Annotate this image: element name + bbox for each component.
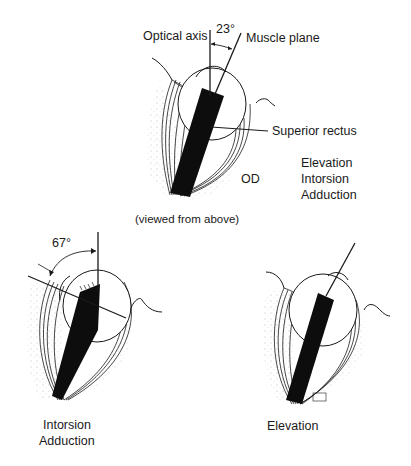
viewed-from-above-caption: (viewed from above): [135, 212, 239, 227]
bottom-left-eye-figure: [26, 232, 162, 400]
optical-axis-label: Optical axis: [143, 29, 208, 44]
bottom-right-action-elevation: Elevation: [267, 419, 318, 434]
bottom-left-action-adduction: Adduction: [39, 434, 95, 449]
od-label: OD: [241, 172, 260, 187]
bottom-right-eye-figure: [262, 243, 390, 404]
superior-rectus-label: Superior rectus: [272, 124, 357, 139]
muscle-plane-label: Muscle plane: [246, 31, 320, 46]
top-action-elevation: Elevation: [301, 156, 352, 171]
angle-23-label: 23°: [216, 22, 235, 37]
diagram-canvas: [0, 0, 411, 466]
top-action-adduction: Adduction: [301, 188, 357, 203]
angle-67-label: 67°: [52, 236, 71, 251]
orbit-outline: [152, 58, 172, 80]
top-action-intorsion: Intorsion: [301, 172, 349, 187]
bottom-left-action-intorsion: Intorsion: [43, 418, 91, 433]
